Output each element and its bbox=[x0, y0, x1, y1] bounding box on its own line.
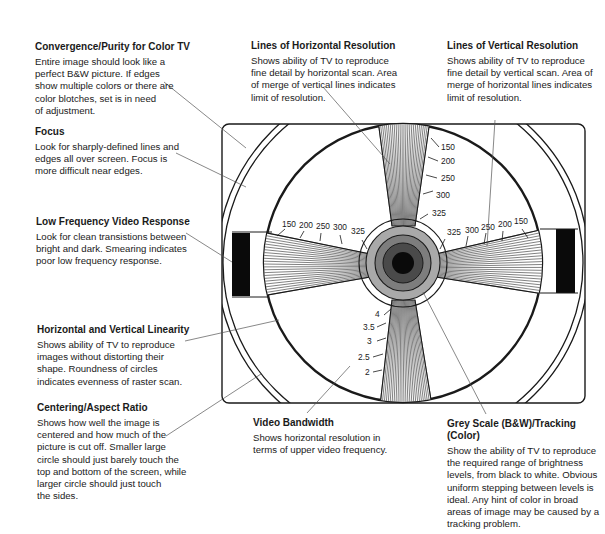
svg-text:250: 250 bbox=[316, 221, 330, 231]
svg-text:150: 150 bbox=[441, 142, 455, 152]
callout-title: Convergence/Purity for Color TV bbox=[35, 41, 215, 53]
callout-title: Focus bbox=[35, 126, 215, 138]
callout-body: Entire image should look like a perfect … bbox=[35, 56, 215, 117]
callout-title: Centering/Aspect Ratio bbox=[37, 402, 222, 414]
callout-title: Lines of Horizontal Resolution bbox=[251, 40, 431, 52]
callout-body: Shows how well the image is centered and… bbox=[37, 417, 222, 502]
callout-horizontal-resolution: Lines of Horizontal Resolution Shows abi… bbox=[251, 40, 431, 104]
svg-text:250: 250 bbox=[441, 173, 455, 183]
svg-text:150: 150 bbox=[514, 216, 528, 226]
callout-body: Show the ability of TV to reproduce the … bbox=[447, 445, 605, 530]
callout-body: Shows ability of TV to reproduce fine de… bbox=[251, 55, 431, 104]
svg-text:2.5: 2.5 bbox=[358, 352, 370, 362]
svg-text:150: 150 bbox=[282, 219, 296, 229]
svg-text:3.5: 3.5 bbox=[363, 322, 375, 332]
svg-text:325: 325 bbox=[351, 226, 365, 236]
svg-text:325: 325 bbox=[447, 227, 461, 237]
svg-text:200: 200 bbox=[441, 156, 455, 166]
svg-text:4: 4 bbox=[375, 309, 380, 319]
svg-text:300: 300 bbox=[333, 222, 347, 232]
callout-title: Lines of Vertical Resolution bbox=[447, 40, 605, 52]
callout-video-bandwidth: Video Bandwidth Shows horizontal resolut… bbox=[253, 417, 423, 456]
callout-title: Low Frequency Video Response bbox=[36, 216, 221, 228]
svg-text:300: 300 bbox=[465, 225, 479, 235]
callout-focus: Focus Look for sharply-defined lines and… bbox=[35, 126, 215, 178]
svg-text:200: 200 bbox=[299, 220, 313, 230]
svg-text:300: 300 bbox=[436, 190, 450, 200]
callout-grey-scale: Grey Scale (B&W)/Tracking (Color) Show t… bbox=[447, 418, 605, 530]
svg-text:200: 200 bbox=[498, 219, 512, 229]
callout-title: Video Bandwidth bbox=[253, 417, 423, 429]
callout-body: Shows horizontal resolution in terms of … bbox=[253, 432, 423, 456]
callout-vertical-resolution: Lines of Vertical Resolution Shows abili… bbox=[447, 40, 605, 104]
callout-body: Shows ability of TV to reproduce fine de… bbox=[447, 55, 605, 104]
svg-text:2: 2 bbox=[365, 367, 370, 377]
callout-body: Shows ability of TV to reproduce images … bbox=[37, 339, 217, 388]
grey-scale-target bbox=[366, 226, 440, 300]
callout-centering: Centering/Aspect Ratio Shows how well th… bbox=[37, 402, 222, 502]
callout-linearity: Horizontal and Vertical Linearity Shows … bbox=[37, 324, 217, 388]
svg-text:325: 325 bbox=[432, 208, 446, 218]
callout-low-frequency: Low Frequency Video Response Look for cl… bbox=[36, 216, 221, 268]
callout-convergence: Convergence/Purity for Color TV Entire i… bbox=[35, 41, 215, 117]
svg-text:3: 3 bbox=[367, 336, 372, 346]
callout-body: Look for sharply-defined lines and edges… bbox=[35, 141, 215, 178]
callout-title: Horizontal and Vertical Linearity bbox=[37, 324, 217, 336]
callout-title: Grey Scale (B&W)/Tracking (Color) bbox=[447, 418, 605, 442]
callout-body: Look for clean transistions between brig… bbox=[36, 231, 221, 268]
